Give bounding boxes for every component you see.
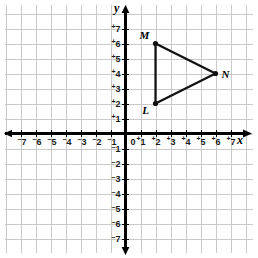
- y-axis-tick-label: –4: [112, 188, 121, 199]
- x-axis-tick-label: –3: [78, 135, 87, 146]
- y-axis-label: y: [112, 1, 120, 15]
- x-axis-tick-label: +3: [166, 135, 175, 146]
- y-axis-tick-label: +2: [111, 98, 120, 109]
- coordinate-plane-figure: –7–6–5–4–3–2–10+1+2+3+4+5+6+7 +7+6+5+4+3…: [0, 0, 258, 258]
- x-axis-tick-label: +6: [211, 135, 220, 146]
- y-axis-tick-label: –7: [112, 233, 121, 244]
- x-axis-tick-label: –4: [63, 135, 72, 146]
- vertex-point-l: [153, 101, 158, 106]
- y-axis-tick-label: +1: [111, 113, 120, 124]
- y-axis-arrow-up: [122, 5, 130, 13]
- x-axis-tick-label: –6: [33, 135, 42, 146]
- vertex-label-n: N: [221, 68, 231, 80]
- y-axis-tick-label: +3: [111, 83, 120, 94]
- y-axis-tick-label: –3: [112, 173, 121, 184]
- x-axis-tick-label: +1: [136, 135, 145, 146]
- x-axis-tick-label: –2: [93, 135, 102, 146]
- x-axis-tick-label: +4: [181, 135, 190, 146]
- x-axis-arrow-right: [243, 130, 252, 138]
- y-axis-tick-label: –6: [112, 218, 121, 229]
- triangle-edge: [156, 44, 216, 74]
- x-axis-origin-label: 0: [131, 137, 136, 147]
- vertex-label-l: L: [141, 104, 149, 116]
- x-axis-tick-label: +2: [151, 135, 160, 146]
- x-axis-tick-label: –7: [18, 135, 27, 146]
- grid-lines: [5, 5, 253, 253]
- axes: [4, 5, 252, 255]
- y-axis-tick-label: +6: [111, 38, 120, 49]
- x-axis-label: x: [236, 133, 243, 147]
- triangle-edge: [156, 74, 216, 104]
- y-axis-tick-label: +5: [111, 53, 120, 64]
- coordinate-plane-svg: –7–6–5–4–3–2–10+1+2+3+4+5+6+7 +7+6+5+4+3…: [0, 0, 258, 258]
- vertex-point-n: [213, 71, 218, 76]
- vertex-point-m: [153, 41, 158, 46]
- y-axis-arrow-down: [122, 247, 130, 255]
- y-axis-tick-label: –2: [112, 158, 121, 169]
- x-axis-tick-label: +5: [196, 135, 205, 146]
- y-axis-tick-label: +7: [111, 23, 120, 34]
- x-axis-arrow-left: [4, 130, 12, 137]
- y-axis-tick-label: –5: [112, 203, 121, 214]
- triangle-vertices: [153, 41, 218, 106]
- triangle-edges: [156, 44, 216, 104]
- x-axis-tick-label: +7: [226, 135, 235, 146]
- y-axis-tick-label: –1: [112, 143, 121, 154]
- vertex-label-m: M: [139, 29, 151, 41]
- x-axis-tick-label: –5: [48, 135, 57, 146]
- y-axis-tick-label: +4: [111, 68, 120, 79]
